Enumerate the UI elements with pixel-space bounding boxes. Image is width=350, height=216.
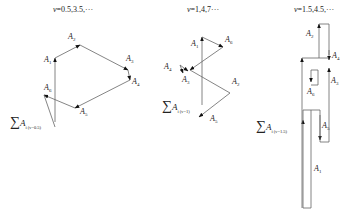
vector-a4 bbox=[128, 70, 130, 80]
label-a5: A2 bbox=[232, 78, 239, 87]
label-a3: A4 bbox=[164, 63, 171, 72]
label-a2: A6 bbox=[225, 36, 232, 45]
label-a2: A2 bbox=[68, 33, 75, 42]
panel-nu-1.5-vectors bbox=[302, 24, 329, 208]
panel-title-nu-0.5: ν=0.5,3.5,··· bbox=[53, 5, 93, 14]
label-a3: A3 bbox=[126, 55, 133, 64]
panel-title-nu-1: ν=1,4,7··· bbox=[187, 5, 219, 14]
label-a1: A1 bbox=[44, 56, 51, 65]
label-a6: A6 bbox=[307, 88, 314, 97]
label-a4: A4 bbox=[132, 78, 139, 87]
vector-a2 bbox=[202, 37, 223, 47]
vector-sum bbox=[44, 95, 55, 127]
label-a6: A5 bbox=[210, 115, 217, 124]
sum-label-nu-1: ∑Ai (ν=1) bbox=[162, 97, 190, 115]
vector-a6 bbox=[44, 95, 75, 108]
vector-a3 bbox=[190, 47, 223, 70]
sum-label-nu-1.5: ∑Ai (ν=1.5) bbox=[256, 117, 287, 135]
vector-a4 bbox=[190, 70, 230, 93]
label-a3: A3 bbox=[331, 77, 338, 86]
label-a5: A5 bbox=[80, 108, 87, 117]
vector-a2 bbox=[55, 45, 80, 58]
label-a5: A5 bbox=[322, 122, 329, 131]
label-a1: A1 bbox=[314, 165, 321, 174]
label-a4: A3 bbox=[182, 76, 189, 85]
label-a2: A2 bbox=[306, 30, 313, 39]
label-a6: A6 bbox=[44, 84, 51, 93]
label-a1: A1 bbox=[191, 40, 198, 49]
vector-a3 bbox=[80, 45, 128, 70]
label-a4: A4 bbox=[332, 52, 339, 61]
vector-a5 bbox=[75, 80, 130, 108]
panel-title-nu-1.5: ν=1.5,4.5,··· bbox=[294, 5, 334, 14]
sum-label-nu-0.5: ∑Ai (ν=0.5) bbox=[10, 113, 41, 131]
